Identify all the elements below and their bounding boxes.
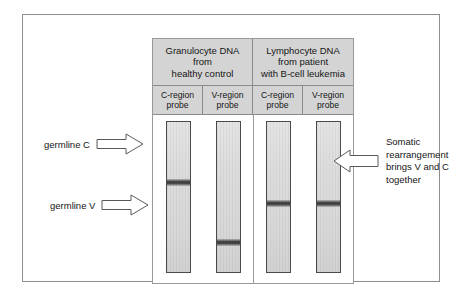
- sample-header-granulocyte-line-3: healthy control: [172, 68, 234, 79]
- sample-header-lymphocyte-line-2: from patient: [278, 56, 328, 67]
- annotation-somatic-line-1: Somatic: [386, 136, 449, 149]
- gel-band-rearranged-c: [267, 200, 290, 207]
- gel-band-germline-c: [167, 179, 190, 186]
- annotation-somatic-line-3: brings V and C: [386, 161, 449, 174]
- arrow-left-icon: [333, 146, 379, 176]
- annotation-germline-v: germline V: [50, 194, 149, 216]
- arrow-right-icon: [96, 133, 144, 155]
- annotation-germline-c-label: germline C: [44, 139, 90, 150]
- probe-header-1-line-1: C-region: [161, 90, 194, 100]
- annotation-somatic-line-2: rearrangement: [386, 149, 449, 162]
- arrow-right-icon: [101, 194, 149, 216]
- gel-panel: Granulocyte DNA from healthy control Lym…: [152, 38, 354, 284]
- annotation-germline-c: germline C: [44, 133, 144, 155]
- probe-header-4: V-region probe: [303, 86, 353, 115]
- sample-header-granulocyte-line-2: from: [193, 56, 212, 67]
- lane-slot-2: [203, 115, 253, 283]
- gel-lane-granulocyte-c-probe: [166, 121, 191, 273]
- lane-slot-1: [153, 115, 203, 283]
- probe-header-2-line-1: V-region: [211, 90, 243, 100]
- probe-header-4-line-1: V-region: [312, 90, 344, 100]
- sample-header-row: Granulocyte DNA from healthy control Lym…: [153, 39, 353, 86]
- annotation-somatic-line-4: together: [386, 174, 449, 187]
- sample-header-granulocyte: Granulocyte DNA from healthy control: [153, 39, 253, 86]
- sample-header-granulocyte-line-1: Granulocyte DNA: [166, 45, 240, 56]
- sample-header-lymphocyte: Lymphocyte DNA from patient with B-cell …: [253, 39, 353, 86]
- probe-header-3-line-2: probe: [267, 100, 289, 110]
- gel-band-rearranged-v: [317, 200, 340, 207]
- gel-lane-lymphocyte-c-probe: [266, 121, 291, 273]
- annotation-germline-v-label: germline V: [50, 200, 95, 211]
- probe-header-2-line-2: probe: [217, 100, 239, 110]
- lane-slot-3: [253, 115, 303, 283]
- gel-band-germline-v: [217, 239, 240, 246]
- probe-header-1-line-2: probe: [167, 100, 189, 110]
- probe-header-3-line-1: C-region: [261, 90, 294, 100]
- gel-lanes-area: [153, 115, 353, 283]
- sample-header-lymphocyte-line-1: Lymphocyte DNA: [266, 45, 340, 56]
- annotation-somatic-text: Somatic rearrangement brings V and C tog…: [386, 136, 449, 187]
- gel-lane-granulocyte-v-probe: [216, 121, 241, 273]
- probe-header-row: C-region probe V-region probe C-region p…: [153, 86, 353, 115]
- probe-header-3: C-region probe: [253, 86, 303, 115]
- probe-header-4-line-2: probe: [317, 100, 339, 110]
- probe-header-1: C-region probe: [153, 86, 203, 115]
- annotation-somatic-rearrangement: Somatic rearrangement brings V and C tog…: [333, 136, 449, 187]
- probe-header-2: V-region probe: [203, 86, 253, 115]
- sample-header-lymphocyte-line-3: with B-cell leukemia: [261, 68, 345, 79]
